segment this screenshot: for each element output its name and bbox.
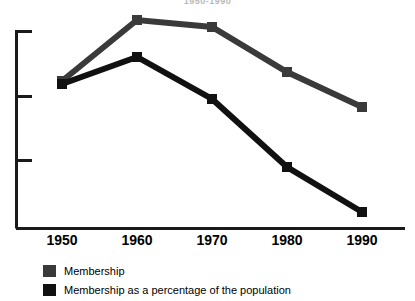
chart-legend: Membership Membership as a percentage of… [43, 262, 383, 300]
series-line-membership-percentage [62, 57, 362, 212]
data-point-marker [132, 15, 142, 25]
series-line-membership [62, 20, 362, 107]
chart-plot-area [0, 0, 415, 301]
data-point-marker [207, 94, 217, 104]
x-axis-tick-label: 1990 [346, 232, 377, 248]
x-axis-tick-label: 1980 [271, 232, 302, 248]
series-markers-membership-percentage [57, 52, 367, 217]
data-point-marker [357, 207, 367, 217]
x-axis-tick-label: 1950 [46, 232, 77, 248]
data-point-marker [207, 22, 217, 32]
x-axis-tick-label: 1970 [196, 232, 227, 248]
legend-item-label: Membership [64, 265, 125, 277]
legend-item-label: Membership as a percentage of the popula… [64, 284, 291, 296]
legend-item: Membership as a percentage of the popula… [43, 281, 383, 298]
legend-swatch-icon [43, 265, 56, 277]
data-point-marker [282, 162, 292, 172]
legend-swatch-icon [43, 284, 56, 296]
chart-container: 1950-1990 19501960197019801990 Membershi… [0, 0, 415, 301]
y-axis [16, 30, 32, 229]
legend-item: Membership [43, 262, 383, 279]
data-point-marker [57, 79, 67, 89]
data-point-marker [357, 102, 367, 112]
x-axis-tick-label: 1960 [121, 232, 152, 248]
data-point-marker [132, 52, 142, 62]
data-point-marker [282, 67, 292, 77]
